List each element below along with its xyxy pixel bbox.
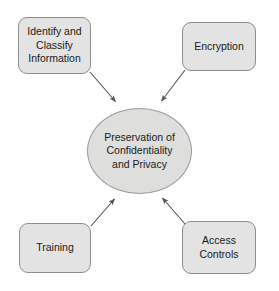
arrow-training-to-hub xyxy=(91,199,115,226)
node-preservation-hub[interactable]: Preservation of Confidentiality and Priv… xyxy=(87,108,192,194)
arrow-identify-to-hub xyxy=(90,72,116,102)
node-label: Identify and Classify Information xyxy=(23,25,85,65)
diagram-canvas: Identify and Classify Information Encryp… xyxy=(0,0,279,291)
node-label: Encryption xyxy=(190,40,248,53)
node-training[interactable]: Training xyxy=(19,223,91,273)
hub-label: Preservation of Confidentiality and Priv… xyxy=(98,131,181,172)
node-label: Training xyxy=(32,241,78,254)
node-identify-and-classify-information[interactable]: Identify and Classify Information xyxy=(18,17,91,74)
arrow-encryption-to-hub xyxy=(162,70,186,101)
node-access-controls[interactable]: Access Controls xyxy=(182,221,256,274)
arrow-access-to-hub xyxy=(163,198,186,224)
node-encryption[interactable]: Encryption xyxy=(182,22,256,71)
node-label: Access Controls xyxy=(195,234,242,261)
